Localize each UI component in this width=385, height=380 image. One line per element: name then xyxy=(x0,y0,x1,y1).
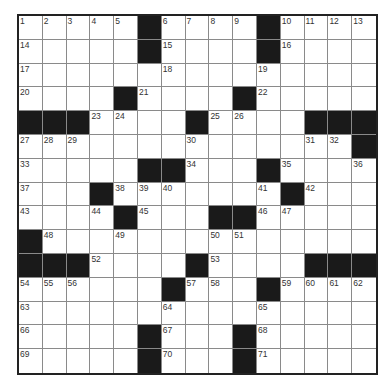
grid-cell[interactable] xyxy=(352,302,376,326)
grid-cell[interactable]: 13 xyxy=(352,16,376,40)
grid-cell[interactable] xyxy=(328,87,352,111)
grid-cell[interactable]: 33 xyxy=(19,159,43,183)
grid-cell[interactable] xyxy=(209,135,233,159)
grid-cell[interactable] xyxy=(67,40,91,64)
grid-cell[interactable]: 2 xyxy=(43,16,67,40)
grid-cell[interactable] xyxy=(328,64,352,88)
grid-cell[interactable] xyxy=(328,159,352,183)
grid-cell[interactable]: 40 xyxy=(162,183,186,207)
grid-cell[interactable] xyxy=(186,87,210,111)
grid-cell[interactable]: 3 xyxy=(67,16,91,40)
grid-cell[interactable] xyxy=(209,302,233,326)
grid-cell[interactable] xyxy=(67,64,91,88)
grid-cell[interactable]: 30 xyxy=(186,135,210,159)
grid-cell[interactable] xyxy=(281,349,305,373)
grid-cell[interactable]: 57 xyxy=(186,278,210,302)
grid-cell[interactable] xyxy=(328,325,352,349)
grid-cell[interactable]: 43 xyxy=(19,206,43,230)
grid-cell[interactable]: 5 xyxy=(114,16,138,40)
grid-cell[interactable] xyxy=(43,302,67,326)
grid-cell[interactable]: 71 xyxy=(257,349,281,373)
grid-cell[interactable]: 52 xyxy=(90,254,114,278)
grid-cell[interactable] xyxy=(281,135,305,159)
grid-cell[interactable]: 25 xyxy=(209,111,233,135)
grid-cell[interactable] xyxy=(90,278,114,302)
grid-cell[interactable] xyxy=(352,206,376,230)
grid-cell[interactable] xyxy=(281,254,305,278)
grid-cell[interactable] xyxy=(114,349,138,373)
grid-cell[interactable]: 58 xyxy=(209,278,233,302)
grid-cell[interactable]: 62 xyxy=(352,278,376,302)
grid-cell[interactable] xyxy=(43,349,67,373)
grid-cell[interactable]: 66 xyxy=(19,325,43,349)
grid-cell[interactable]: 8 xyxy=(209,16,233,40)
grid-cell[interactable]: 10 xyxy=(281,16,305,40)
grid-cell[interactable] xyxy=(209,183,233,207)
grid-cell[interactable] xyxy=(352,64,376,88)
grid-cell[interactable]: 4 xyxy=(90,16,114,40)
grid-cell[interactable] xyxy=(209,87,233,111)
grid-cell[interactable]: 39 xyxy=(138,183,162,207)
grid-cell[interactable] xyxy=(257,254,281,278)
grid-cell[interactable]: 31 xyxy=(305,135,329,159)
grid-cell[interactable]: 23 xyxy=(90,111,114,135)
grid-cell[interactable] xyxy=(209,325,233,349)
grid-cell[interactable] xyxy=(43,40,67,64)
grid-cell[interactable] xyxy=(305,325,329,349)
grid-cell[interactable] xyxy=(328,230,352,254)
grid-cell[interactable] xyxy=(209,349,233,373)
grid-cell[interactable]: 34 xyxy=(186,159,210,183)
grid-cell[interactable] xyxy=(328,349,352,373)
grid-cell[interactable]: 37 xyxy=(19,183,43,207)
grid-cell[interactable] xyxy=(233,64,257,88)
grid-cell[interactable] xyxy=(352,183,376,207)
grid-cell[interactable] xyxy=(305,206,329,230)
grid-cell[interactable] xyxy=(186,230,210,254)
grid-cell[interactable] xyxy=(67,159,91,183)
grid-cell[interactable]: 50 xyxy=(209,230,233,254)
grid-cell[interactable]: 38 xyxy=(114,183,138,207)
grid-cell[interactable]: 68 xyxy=(257,325,281,349)
grid-cell[interactable] xyxy=(352,325,376,349)
grid-cell[interactable] xyxy=(305,230,329,254)
grid-cell[interactable] xyxy=(233,183,257,207)
grid-cell[interactable]: 21 xyxy=(138,87,162,111)
grid-cell[interactable] xyxy=(114,159,138,183)
grid-cell[interactable] xyxy=(186,302,210,326)
grid-cell[interactable]: 45 xyxy=(138,206,162,230)
grid-cell[interactable]: 32 xyxy=(328,135,352,159)
grid-cell[interactable]: 49 xyxy=(114,230,138,254)
grid-cell[interactable]: 69 xyxy=(19,349,43,373)
grid-cell[interactable] xyxy=(281,230,305,254)
grid-cell[interactable] xyxy=(257,111,281,135)
grid-cell[interactable] xyxy=(162,111,186,135)
grid-cell[interactable] xyxy=(90,349,114,373)
grid-cell[interactable] xyxy=(67,183,91,207)
grid-cell[interactable] xyxy=(162,254,186,278)
grid-cell[interactable] xyxy=(114,302,138,326)
grid-cell[interactable]: 16 xyxy=(281,40,305,64)
grid-cell[interactable] xyxy=(281,111,305,135)
grid-cell[interactable]: 9 xyxy=(233,16,257,40)
grid-cell[interactable] xyxy=(138,111,162,135)
grid-cell[interactable] xyxy=(281,325,305,349)
grid-cell[interactable] xyxy=(43,183,67,207)
grid-cell[interactable] xyxy=(209,40,233,64)
grid-cell[interactable] xyxy=(138,278,162,302)
grid-cell[interactable] xyxy=(162,135,186,159)
grid-cell[interactable]: 26 xyxy=(233,111,257,135)
grid-cell[interactable] xyxy=(67,87,91,111)
grid-cell[interactable]: 67 xyxy=(162,325,186,349)
grid-cell[interactable] xyxy=(138,254,162,278)
grid-cell[interactable] xyxy=(138,135,162,159)
grid-cell[interactable] xyxy=(114,325,138,349)
grid-cell[interactable]: 41 xyxy=(257,183,281,207)
grid-cell[interactable]: 51 xyxy=(233,230,257,254)
grid-cell[interactable]: 6 xyxy=(162,16,186,40)
grid-cell[interactable] xyxy=(90,64,114,88)
grid-cell[interactable]: 44 xyxy=(90,206,114,230)
grid-cell[interactable] xyxy=(257,230,281,254)
grid-cell[interactable] xyxy=(114,64,138,88)
grid-cell[interactable]: 11 xyxy=(305,16,329,40)
grid-cell[interactable]: 24 xyxy=(114,111,138,135)
